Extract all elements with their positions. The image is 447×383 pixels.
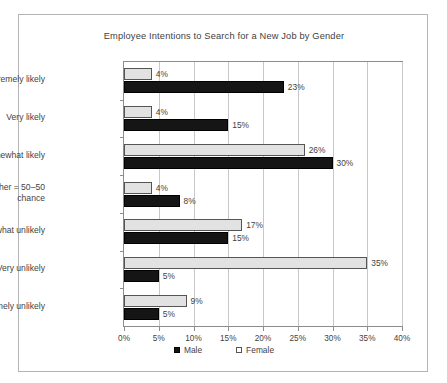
bar-female: [124, 257, 367, 269]
bar-female: [124, 106, 152, 118]
bar-value-label-male: 8%: [184, 195, 196, 207]
x-axis-tick: [159, 327, 160, 331]
x-axis-tick-label: 35%: [359, 334, 375, 343]
bar-male: [124, 308, 159, 320]
gridline: [298, 62, 299, 326]
bar-value-label-male: 5%: [163, 270, 175, 282]
x-axis-tick: [124, 327, 125, 331]
bar-male: [124, 157, 333, 169]
category-label: Extremely unlikely: [0, 301, 45, 312]
gridline: [367, 62, 368, 326]
bar-value-label-female: 9%: [191, 295, 203, 307]
bar-male: [124, 81, 284, 93]
x-axis-tick: [263, 327, 264, 331]
gridline: [333, 62, 334, 326]
category-label: Extremely likely: [0, 74, 45, 85]
x-axis-tick-label: 0%: [118, 334, 130, 343]
bar-male: [124, 119, 228, 131]
y-axis-tick: [120, 100, 124, 101]
x-axis-tick-label: 20%: [255, 334, 271, 343]
bar-male: [124, 232, 228, 244]
legend-swatch-male-icon: [174, 347, 180, 353]
category-label: Neither = 50–50 chance: [0, 182, 45, 204]
gridline: [402, 62, 403, 326]
x-axis-tick: [298, 327, 299, 331]
plot-area: 0%5%10%15%20%25%30%35%40%4%23%4%15%26%30…: [123, 61, 403, 327]
category-label: Somewhat likely: [0, 150, 45, 161]
y-axis-tick: [120, 175, 124, 176]
bar-value-label-female: 4%: [156, 68, 168, 80]
y-axis-tick: [120, 288, 124, 289]
bar-female: [124, 182, 152, 194]
category-label: Very likely: [0, 112, 45, 123]
x-axis-tick: [194, 327, 195, 331]
legend-label-male: Male: [184, 345, 202, 355]
y-axis-tick: [120, 251, 124, 252]
x-axis-tick-label: 5%: [153, 334, 165, 343]
bar-value-label-male: 15%: [232, 232, 249, 244]
x-axis-tick-label: 40%: [394, 334, 410, 343]
gridline: [263, 62, 264, 326]
bar-value-label-male: 23%: [288, 81, 305, 93]
bar-male: [124, 270, 159, 282]
legend-swatch-female-icon: [236, 347, 242, 353]
bar-value-label-male: 15%: [232, 119, 249, 131]
x-axis-tick-label: 30%: [324, 334, 340, 343]
bar-value-label-female: 35%: [371, 257, 388, 269]
bar-female: [124, 144, 305, 156]
x-axis-tick: [228, 327, 229, 331]
x-axis-tick: [367, 327, 368, 331]
category-label: Somewhat unlikely: [0, 225, 45, 236]
gridline: [228, 62, 229, 326]
y-axis-tick: [120, 213, 124, 214]
bar-female: [124, 219, 242, 231]
bar-value-label-female: 4%: [156, 106, 168, 118]
x-axis-tick-label: 25%: [290, 334, 306, 343]
bar-male: [124, 195, 180, 207]
bar-female: [124, 68, 152, 80]
bar-value-label-female: 26%: [309, 144, 326, 156]
bar-value-label-female: 4%: [156, 182, 168, 194]
chart-frame: Employee Intentions to Search for a New …: [18, 14, 428, 372]
category-label: Very unlikely: [0, 263, 45, 274]
chart-title: Employee Intentions to Search for a New …: [19, 31, 429, 41]
legend-entry-male: Male: [174, 345, 202, 355]
x-axis-tick: [402, 327, 403, 331]
x-axis-tick: [333, 327, 334, 331]
y-axis-tick: [120, 137, 124, 138]
bar-value-label-male: 5%: [163, 308, 175, 320]
bar-value-label-male: 30%: [337, 157, 354, 169]
x-axis-tick-label: 15%: [220, 334, 236, 343]
legend-entry-female: Female: [236, 345, 274, 355]
x-axis-tick-label: 10%: [185, 334, 201, 343]
bar-female: [124, 295, 187, 307]
legend-label-female: Female: [246, 345, 274, 355]
chart-legend: Male Female: [19, 345, 429, 355]
bar-value-label-female: 17%: [246, 219, 263, 231]
